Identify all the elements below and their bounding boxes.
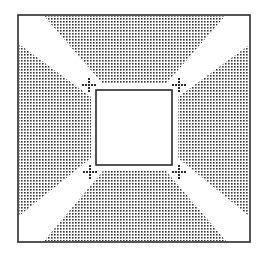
- cross-marker-icon-top-right: [172, 78, 186, 92]
- cross-marker-icon-bottom-right: [172, 165, 186, 179]
- cross-marker-icon-bottom-left: [83, 165, 97, 179]
- cross-marker-icon-top-left: [82, 78, 96, 92]
- diagram-canvas: [0, 0, 260, 255]
- shaded-region-top: [44, 16, 225, 84]
- shaded-region-bottom: [44, 171, 226, 241]
- shaded-region-left: [19, 44, 91, 216]
- inner-square: [96, 90, 172, 165]
- shaded-region-right: [178, 45, 249, 216]
